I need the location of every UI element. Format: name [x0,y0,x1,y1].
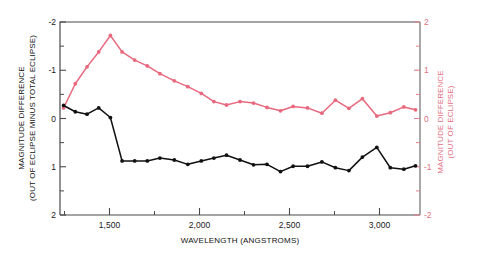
data-point [402,167,406,171]
y-left-ticklabel: 2 [51,210,56,220]
axis-frame-left-top-bottom [60,22,420,215]
x-axis-title: WAVELENGTH (ANGSTROMS) [181,236,300,245]
data-point [388,166,392,170]
data-point [279,170,283,174]
y-axis-right-title-line1: MAGNITUDE DIFFERENCE [436,70,445,173]
data-point [133,58,137,62]
data-point [306,164,310,168]
x-ticklabel: 1,500 [99,220,121,230]
y-left-ticklabel: 0 [51,114,56,124]
data-point [199,92,203,96]
data-point [120,50,124,54]
y-axis-left-title-line2: (OUT OF ECLIPSE MINUS TOTAL ECLIPSE) [28,35,37,201]
data-point [402,105,406,109]
chart-figure: -2-1012 210-1-2 1,5002,0002,5003,000 MAG… [0,0,478,263]
data-point [186,85,190,89]
data-point [347,106,351,110]
y-axis-left-title-line1: MAGNITUDE DIFFERENCE [17,66,26,169]
series-markers-magnitude-difference [62,104,418,174]
data-point [388,111,392,115]
data-point [62,104,66,108]
y-right-ticklabel: 2 [424,17,429,27]
series-line-out-of-eclipse [64,36,416,117]
data-point [225,153,229,157]
data-point [334,166,338,170]
data-point [73,82,77,86]
data-point [133,159,137,163]
data-point [252,163,256,167]
y-right-ticklabel: -2 [424,210,432,220]
y-axis-left-ticklabels: -2-1012 [48,17,56,220]
data-point [265,162,269,166]
data-point [361,97,365,101]
y-left-ticklabel: 1 [51,162,56,172]
data-point [186,162,190,166]
data-point [252,101,256,105]
data-point [238,158,242,162]
data-point [306,106,310,110]
y-right-ticklabel: 0 [424,114,429,124]
data-point [158,156,162,160]
x-ticklabel: 3,000 [369,220,391,230]
y-left-ticklabel: -1 [48,65,56,75]
data-point [291,105,295,109]
data-point [120,159,124,163]
chart-plot-area: -2-1012 210-1-2 1,5002,0002,5003,000 MAG… [0,0,478,263]
x-ticklabel: 2,500 [279,220,301,230]
data-point [320,160,324,164]
data-point [225,103,229,107]
y-axis-left-ticks [60,22,66,215]
data-point [109,34,113,38]
data-point [414,164,418,168]
data-point [361,155,365,159]
x-ticklabel: 2,000 [189,220,211,230]
data-point [109,116,113,120]
data-point [414,108,418,112]
x-axis-ticks [65,208,380,215]
data-point [320,111,324,115]
y-right-ticklabel: -1 [424,162,432,172]
data-point [97,106,101,110]
data-point [85,65,89,69]
series-markers-out-of-eclipse [62,34,418,118]
data-point [238,100,242,104]
data-point [172,79,176,83]
y-axis-right-title-line2: (OUT OF ECLIPSE) [446,85,455,158]
data-point [145,159,149,163]
data-point [279,109,283,113]
data-point [265,106,269,110]
data-point [158,72,162,76]
data-point [375,146,379,150]
y-axis-right-ticklabels: 210-1-2 [424,17,432,220]
data-point [212,156,216,160]
y-right-ticklabel: 1 [424,65,429,75]
y-left-ticklabel: -2 [48,17,56,27]
x-axis-ticklabels: 1,5002,0002,5003,000 [99,220,391,230]
data-point [97,50,101,54]
data-point [375,114,379,118]
data-point [73,110,77,114]
data-point [334,98,338,102]
data-point [172,158,176,162]
data-point [212,100,216,104]
y-axis-right-ticks [414,22,420,215]
data-point [85,112,89,116]
data-point [347,169,351,173]
data-point [199,159,203,163]
data-point [291,164,295,168]
data-point [145,64,149,68]
